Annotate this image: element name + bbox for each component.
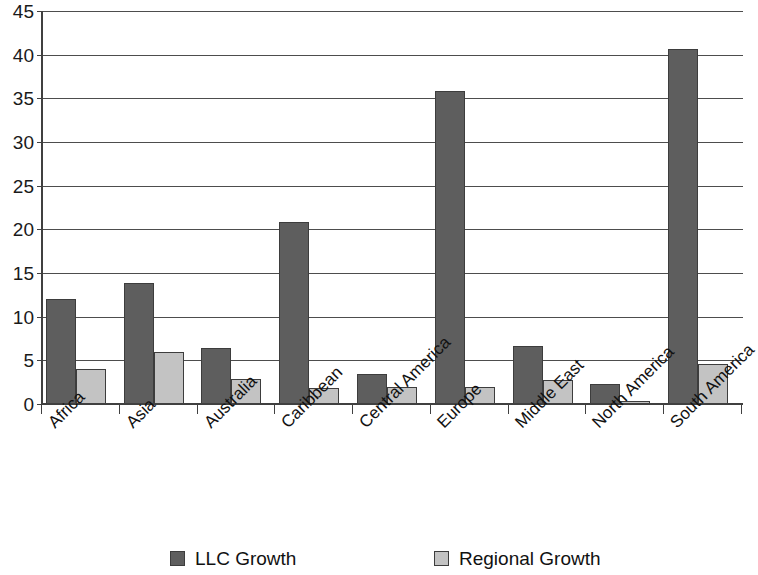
y-tick-label-25: 25 [13, 176, 34, 195]
legend-label: Regional Growth [459, 549, 601, 568]
legend-item-regional: Regional Growth [434, 549, 601, 568]
y-tick-label-35: 35 [13, 89, 34, 108]
legend-label: LLC Growth [195, 549, 296, 568]
bar-africa-llc-growth [46, 299, 76, 404]
bar-group [46, 11, 106, 404]
plot-area: 051015202530354045 [41, 11, 743, 404]
y-tick-mark-15 [37, 273, 43, 274]
y-tick-mark-25 [37, 186, 43, 187]
bar-group [668, 11, 728, 404]
y-tick-mark-20 [37, 229, 43, 230]
bar-group [124, 11, 184, 404]
y-tick-label-5: 5 [23, 351, 34, 370]
y-tick-label-0: 0 [23, 395, 34, 414]
y-tick-label-10: 10 [13, 307, 34, 326]
y-tick-label-15: 15 [13, 264, 34, 283]
x-tick-mark-5 [430, 405, 431, 414]
y-tick-mark-30 [37, 142, 43, 143]
x-tick-mark-0 [41, 405, 42, 414]
x-tick-mark-end [741, 405, 742, 414]
x-tick-mark-8 [663, 405, 664, 414]
bar-caribbean-llc-growth [279, 222, 309, 404]
x-tick-mark-4 [352, 405, 353, 414]
chart-legend: LLC GrowthRegional Growth [0, 545, 743, 575]
legend-item-llc: LLC Growth [170, 549, 296, 568]
bar-group [590, 11, 650, 404]
bar-group [279, 11, 339, 404]
bar-group [201, 11, 261, 404]
y-tick-mark-35 [37, 98, 43, 99]
legend-swatch-regional-icon [434, 551, 449, 566]
y-tick-mark-10 [37, 317, 43, 318]
bar-group [357, 11, 417, 404]
y-tick-label-45: 45 [13, 2, 34, 21]
y-tick-mark-45 [37, 11, 43, 12]
x-tick-mark-3 [274, 405, 275, 414]
x-tick-mark-2 [197, 405, 198, 414]
y-tick-mark-40 [37, 55, 43, 56]
x-tick-mark-6 [508, 405, 509, 414]
x-tick-mark-7 [585, 405, 586, 414]
y-tick-label-20: 20 [13, 220, 34, 239]
bar-asia-regional-growth [154, 352, 184, 404]
y-tick-label-30: 30 [13, 133, 34, 152]
x-tick-mark-1 [119, 405, 120, 414]
y-tick-mark-5 [37, 360, 43, 361]
bar-group [513, 11, 573, 404]
legend-swatch-llc-icon [170, 551, 185, 566]
y-tick-label-40: 40 [13, 45, 34, 64]
bar-asia-llc-growth [124, 283, 154, 404]
